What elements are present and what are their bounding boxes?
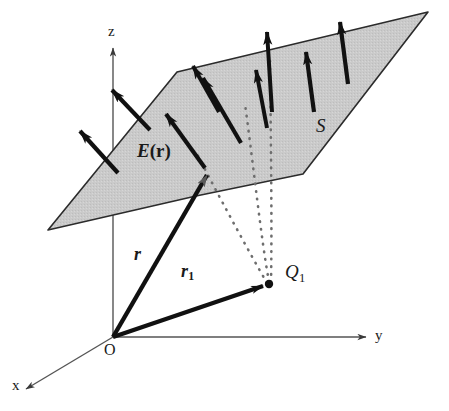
charge-label-base: Q — [285, 261, 299, 282]
vector-r1 — [113, 286, 263, 337]
vector-r-label: r — [134, 245, 141, 263]
diagram-canvas — [0, 0, 449, 411]
z-axis-label: z — [108, 24, 115, 39]
physics-diagram: z x y O S r r1 Q1 E(r) — [0, 0, 449, 411]
field-arrow-2 — [112, 90, 150, 130]
charge-point-q1 — [265, 280, 273, 288]
charge-label-sub: 1 — [299, 271, 306, 285]
surface-s-polygon — [48, 12, 428, 230]
vector-r1-label-sub: 1 — [188, 269, 194, 283]
efield-label-symbol: E — [137, 140, 150, 161]
surface-label-s: S — [316, 116, 326, 135]
vector-r1-label: r1 — [181, 262, 194, 283]
efield-label: E(r) — [137, 141, 171, 160]
vector-r1-label-base: r — [181, 261, 188, 281]
charge-label-q1: Q1 — [285, 262, 305, 284]
origin-label: O — [104, 342, 116, 358]
efield-label-argument: (r) — [150, 140, 171, 161]
x-axis-line — [26, 337, 113, 389]
x-axis-label: x — [12, 378, 20, 393]
y-axis-label: y — [375, 328, 383, 343]
x-axis — [26, 337, 113, 389]
